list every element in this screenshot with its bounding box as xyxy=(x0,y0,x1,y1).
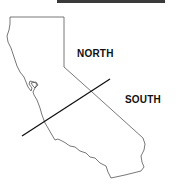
north-label: NORTH xyxy=(77,48,114,59)
bay-detail xyxy=(31,82,38,88)
south-label: SOUTH xyxy=(125,94,161,105)
